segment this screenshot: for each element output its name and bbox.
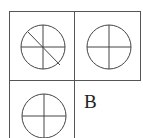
- answer-label: B: [84, 91, 97, 113]
- cell-bottom-left: [9, 80, 75, 138]
- cell-top-right: [74, 11, 141, 81]
- circle-diagonal-figure: [10, 12, 76, 82]
- circle-cross-figure: [75, 12, 142, 82]
- circle-cross-figure: [10, 81, 76, 138]
- cell-top-left: [9, 11, 75, 81]
